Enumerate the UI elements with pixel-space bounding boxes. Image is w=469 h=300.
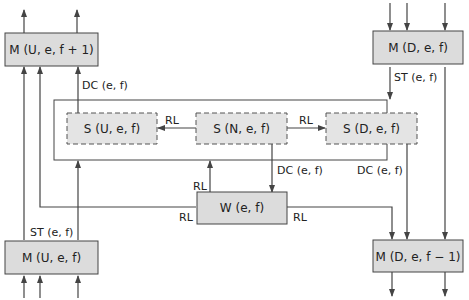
box-s-d-e-f: S (D, e, f) (326, 113, 417, 144)
box-label: S (U, e, f) (84, 122, 140, 136)
box-label: W (e, f) (220, 201, 264, 215)
box-label: S (N, e, f) (213, 122, 270, 136)
box-s-n-e-f: S (N, e, f) (196, 113, 287, 144)
label-st-top-right: ST (e, f) (394, 71, 437, 84)
label-rl-n-to-u: RL (165, 114, 180, 127)
label-rl-w-to-n: RL (193, 180, 208, 193)
box-label: M (D, e, f − 1) (376, 250, 461, 264)
box-m-d-e-f: M (D, e, f) (373, 31, 463, 64)
label-rl-w-right: RL (293, 211, 308, 224)
label-dc-n-to-w: DC (e, f) (277, 164, 323, 177)
box-s-u-e-f: S (U, e, f) (67, 113, 157, 144)
label-dc-top-left: DC (e, f) (82, 79, 128, 92)
label-dc-d-down: DC (e, f) (357, 164, 403, 177)
label-rl-w-left: RL (179, 211, 194, 224)
box-w-e-f: W (e, f) (197, 192, 287, 224)
box-label: M (D, e, f) (388, 41, 448, 55)
label-rl-n-to-d: RL (299, 114, 314, 127)
box-m-u-e-f-plus-1: M (U, e, f + 1) (5, 33, 98, 66)
box-m-u-e-f: M (U, e, f) (5, 241, 98, 274)
box-label: S (D, e, f) (343, 122, 400, 136)
label-st-bottom-left: ST (e, f) (30, 226, 73, 239)
box-label: M (U, e, f) (22, 251, 81, 265)
diagram-canvas: M (U, e, f + 1) M (D, e, f) W (e, f) M (… (0, 0, 469, 300)
box-m-d-e-f-minus-1: M (D, e, f − 1) (373, 240, 463, 272)
box-label: M (U, e, f + 1) (9, 43, 94, 57)
